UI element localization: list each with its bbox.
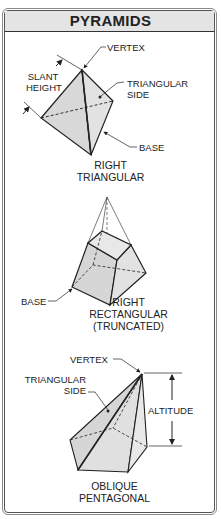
label-side: SIDE xyxy=(18,385,86,396)
caption-right-triangular: RIGHT TRIANGULAR xyxy=(0,159,221,183)
label-height: HEIGHT xyxy=(26,82,60,93)
slant-arrow-top xyxy=(56,60,62,66)
label-side: SIDE xyxy=(127,89,188,100)
caption-line: PENTAGONAL xyxy=(4,492,221,504)
caption-line: TRIANGULAR xyxy=(0,171,221,183)
base-leader xyxy=(104,132,137,147)
caption-line: (TRUNCATED) xyxy=(28,320,221,332)
vertex-leader-2 xyxy=(113,359,140,372)
label-triangular-side-2: TRIANGULAR SIDE xyxy=(18,374,86,396)
caption-line: RIGHT xyxy=(0,159,221,171)
right-triangular-pyramid xyxy=(23,47,137,155)
slant-arrow-bottom xyxy=(23,107,29,114)
apex-line-2 xyxy=(102,197,107,231)
label-base: BASE xyxy=(139,142,164,153)
truncated-rectangular-pyramid xyxy=(48,197,146,305)
caption-right-rectangular: RIGHT RECTANGULAR (TRUNCATED) xyxy=(28,296,221,332)
caption-line: RIGHT xyxy=(28,296,221,308)
label-vertex: VERTEX xyxy=(107,42,145,53)
label-triangular-side: TRIANGULAR SIDE xyxy=(127,78,188,100)
label-slant: SLANT xyxy=(26,71,60,82)
caption-line: RECTANGULAR xyxy=(28,308,221,320)
label-vertex-2: VERTEX xyxy=(70,354,108,365)
caption-oblique-pentagonal: OBLIQUE PENTAGONAL xyxy=(4,480,221,504)
label-slant-height: SLANT HEIGHT xyxy=(26,71,60,93)
slant-ext-top xyxy=(57,55,82,70)
vertex-leader xyxy=(84,47,106,68)
label-altitude: ALTITUDE xyxy=(148,405,193,416)
caption-line: OBLIQUE xyxy=(4,480,221,492)
label-triangular: TRIANGULAR xyxy=(18,374,86,385)
label-triangular: TRIANGULAR xyxy=(127,78,188,89)
